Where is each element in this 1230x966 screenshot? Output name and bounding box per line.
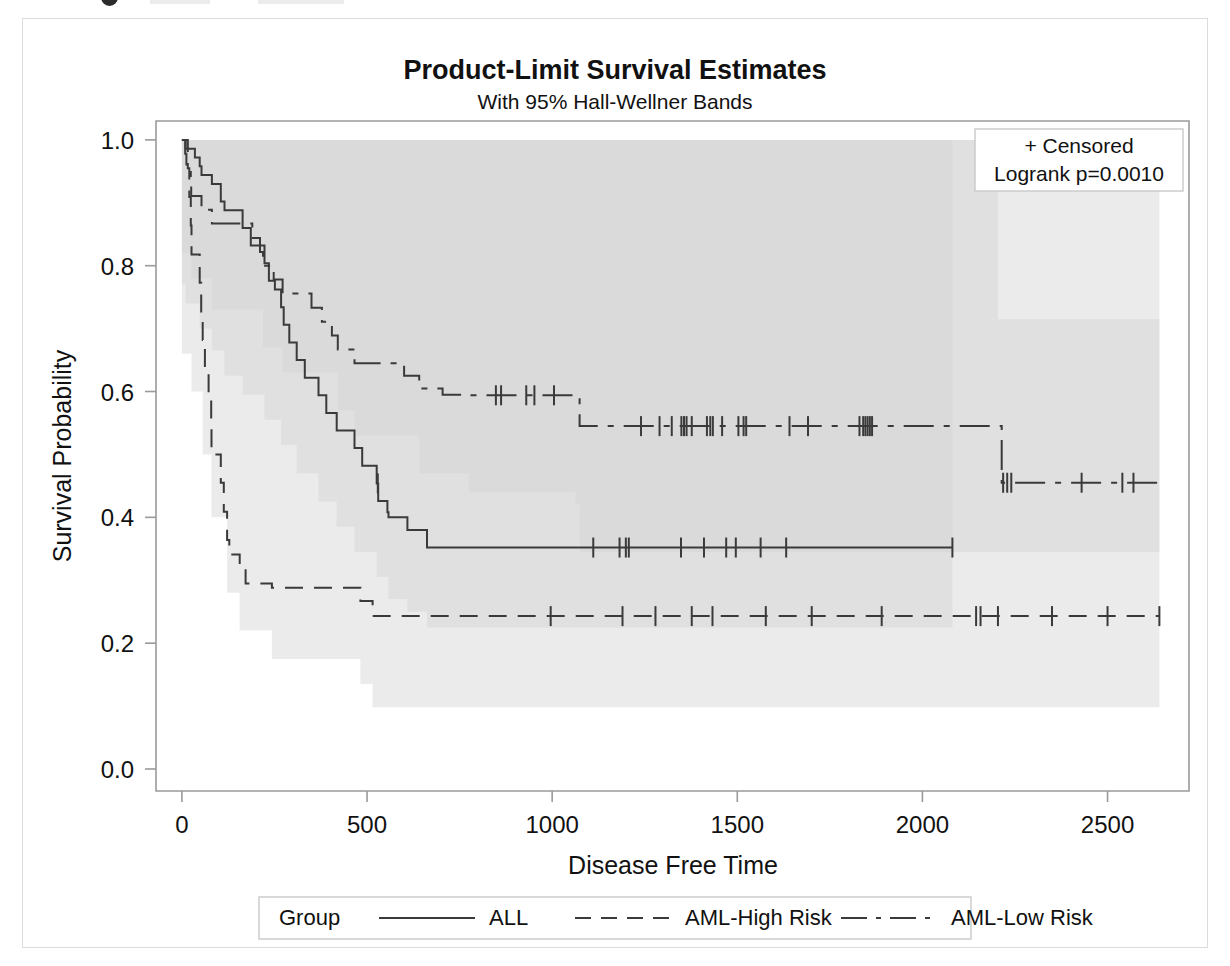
x-tick-label: 2000	[896, 811, 949, 838]
legend-label-aml-high-risk: AML-High Risk	[685, 905, 833, 930]
y-tick-label: 0.4	[101, 504, 134, 531]
group-legend: Group ALL AML-High Risk AML-Low Risk	[259, 897, 1094, 939]
x-axis-ticks: 05001000150020002500	[175, 791, 1134, 838]
y-tick-label: 0.6	[101, 379, 134, 406]
y-tick-label: 1.0	[101, 127, 134, 154]
x-tick-label: 500	[347, 811, 387, 838]
legend-title: Group	[279, 905, 340, 930]
y-tick-label: 0.0	[101, 756, 134, 783]
chart-title: Product-Limit Survival Estimates	[403, 55, 826, 85]
chart-subtitle: With 95% Hall-Wellner Bands	[477, 90, 752, 113]
figure-page: Product-Limit Survival Estimates With 95…	[0, 0, 1230, 966]
y-axis-title: Survival Probability	[48, 349, 76, 562]
legend-label-all: ALL	[489, 905, 528, 930]
scan-artifact-dot	[101, 0, 118, 6]
x-tick-label: 1000	[525, 811, 578, 838]
y-axis-ticks: 0.00.20.40.60.81.0	[101, 127, 156, 783]
x-axis-title: Disease Free Time	[568, 851, 778, 879]
y-tick-label: 0.2	[101, 630, 134, 657]
y-tick-label: 0.8	[101, 253, 134, 280]
confidence-bands-layer	[182, 140, 1160, 707]
x-tick-label: 0	[175, 811, 188, 838]
stat-annotation-box: + Censored Logrank p=0.0010	[975, 129, 1183, 191]
scan-artifact-smudge-2	[258, 0, 344, 4]
figure-border: Product-Limit Survival Estimates With 95…	[22, 18, 1208, 948]
survival-plot: Product-Limit Survival Estimates With 95…	[23, 19, 1207, 947]
x-tick-label: 2500	[1081, 811, 1134, 838]
scan-artifact-strip	[0, 0, 1230, 16]
censored-legend-label: + Censored	[1024, 134, 1133, 157]
logrank-pvalue-label: Logrank p=0.0010	[994, 162, 1164, 185]
legend-label-aml-low-risk: AML-Low Risk	[951, 905, 1094, 930]
x-tick-label: 1500	[711, 811, 764, 838]
scan-artifact-smudge-1	[150, 0, 210, 4]
